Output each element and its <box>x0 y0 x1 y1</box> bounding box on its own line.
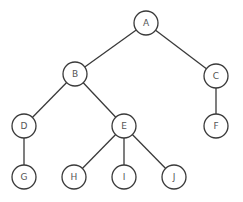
node-c: C <box>204 64 228 88</box>
node-label: F <box>213 121 218 131</box>
node-a: A <box>134 11 158 35</box>
node-h: H <box>62 165 86 189</box>
node-label: I <box>123 172 126 182</box>
node-j: J <box>162 165 186 189</box>
node-label: A <box>143 18 150 28</box>
node-g: G <box>12 165 36 189</box>
node-label: C <box>213 71 219 81</box>
nodes-group: ABCDEFGHIJ <box>12 11 228 189</box>
node-e: E <box>112 114 136 138</box>
edge-a-b <box>75 23 146 74</box>
node-label: D <box>21 121 28 131</box>
node-f: F <box>204 114 228 138</box>
node-label: E <box>121 121 127 131</box>
node-d: D <box>12 114 36 138</box>
node-label: H <box>71 172 78 182</box>
node-label: B <box>72 69 78 79</box>
tree-diagram: ABCDEFGHIJ <box>0 0 243 202</box>
edges-group <box>24 23 216 177</box>
node-i: I <box>112 165 136 189</box>
edge-a-c <box>146 23 216 76</box>
node-label: J <box>172 172 176 182</box>
node-b: B <box>63 62 87 86</box>
node-label: G <box>21 172 28 182</box>
